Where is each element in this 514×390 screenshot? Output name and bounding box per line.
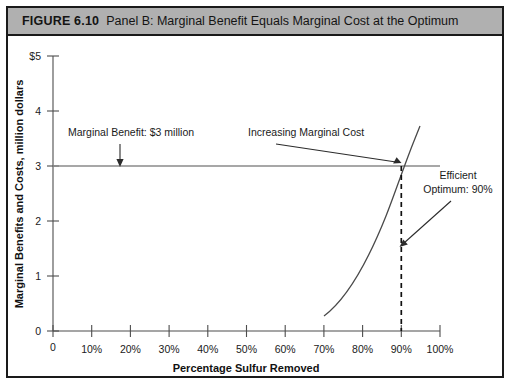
chart-svg: 0 1 2 3 4 $5 0 xyxy=(8,36,502,376)
figure-number: FIGURE 6.10 xyxy=(22,14,99,28)
efficient-optimum-annotation-line2: Optimum: 90% xyxy=(423,183,492,195)
y-axis-title: Marginal Benefits and Costs, million dol… xyxy=(13,80,25,309)
efficient-optimum-annotation-line1: Efficient xyxy=(439,169,476,181)
x-tick-label-3: 30% xyxy=(159,343,180,355)
y-tick-label-0: 0 xyxy=(35,325,41,337)
figure-title-bar: FIGURE 6.10 Panel B: Marginal Benefit Eq… xyxy=(8,8,502,36)
x-axis-title: Percentage Sulfur Removed xyxy=(173,362,320,374)
figure-frame: FIGURE 6.10 Panel B: Marginal Benefit Eq… xyxy=(6,6,504,378)
x-axis-tick-labels: 0 10% 20% 30% 40% 50% 60% 70% 80% 90% 10… xyxy=(50,341,453,355)
increasing-marginal-cost-arrow xyxy=(276,144,402,164)
marginal-benefit-annotation-text: Marginal Benefit: $3 million xyxy=(68,126,194,138)
y-tick-label-3: 3 xyxy=(35,160,41,172)
increasing-marginal-cost-annotation-text: Increasing Marginal Cost xyxy=(248,126,364,138)
y-axis-tick-labels: 0 1 2 3 4 $5 xyxy=(29,50,41,337)
y-tick-label-4: 4 xyxy=(35,105,41,117)
y-tick-label-2: 2 xyxy=(35,215,41,227)
x-tick-label-7: 70% xyxy=(313,343,334,355)
x-tick-label-0: 0 xyxy=(50,341,56,353)
x-tick-label-2: 20% xyxy=(120,343,141,355)
x-tick-label-10: 100% xyxy=(427,343,454,355)
x-tick-label-5: 50% xyxy=(236,343,257,355)
marginal-cost-curve xyxy=(324,126,420,316)
x-tick-label-1: 10% xyxy=(81,343,102,355)
efficient-optimum-arrow xyxy=(400,201,452,247)
x-tick-label-4: 40% xyxy=(197,343,218,355)
figure-title: Panel B: Marginal Benefit Equals Margina… xyxy=(106,14,458,28)
y-tick-label-5: $5 xyxy=(29,50,41,62)
chart-plot-area: 0 1 2 3 4 $5 0 xyxy=(8,36,502,376)
x-tick-label-8: 80% xyxy=(352,343,373,355)
marginal-benefit-arrow xyxy=(116,144,123,167)
x-tick-label-9: 90% xyxy=(391,343,412,355)
y-tick-label-1: 1 xyxy=(35,270,41,282)
x-tick-label-6: 60% xyxy=(275,343,296,355)
